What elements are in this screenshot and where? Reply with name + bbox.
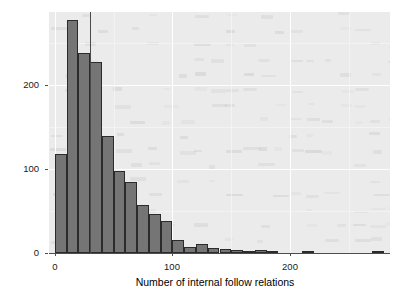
x-axis-line [49, 253, 390, 254]
background-texture [370, 181, 380, 183]
background-texture [243, 147, 259, 150]
background-texture [306, 60, 314, 62]
background-texture [372, 73, 380, 76]
background-texture [292, 149, 304, 152]
y-tick-mark [45, 253, 48, 254]
background-texture [51, 135, 64, 137]
plot-panel [49, 12, 390, 253]
background-texture [371, 208, 386, 210]
histogram-bar [78, 53, 90, 253]
histogram-bar [114, 171, 126, 253]
background-texture [324, 192, 340, 194]
background-texture [322, 120, 333, 124]
background-texture [354, 164, 366, 167]
background-texture [273, 195, 289, 197]
gridline-x-minor [231, 12, 232, 253]
histogram-chart: Frequency 0100200 0100200 Number of inte… [0, 0, 398, 302]
background-texture [149, 162, 160, 165]
background-texture [275, 31, 285, 35]
background-texture [177, 180, 189, 183]
background-texture [149, 193, 162, 196]
mean-reference-line [90, 12, 91, 253]
background-texture [290, 118, 302, 120]
background-texture [305, 150, 321, 153]
histogram-bar [102, 136, 114, 253]
background-texture [50, 148, 66, 152]
x-tick-label: 200 [270, 261, 310, 272]
y-tick-mark [45, 169, 48, 170]
background-texture [291, 192, 301, 195]
gridline-x-major [290, 12, 291, 253]
background-texture [373, 194, 390, 197]
background-texture [355, 121, 364, 124]
background-texture [114, 105, 130, 109]
background-texture [163, 88, 171, 91]
background-texture [195, 72, 206, 76]
background-texture [371, 237, 382, 241]
background-texture [243, 88, 256, 91]
histogram-bar [125, 182, 137, 253]
background-texture [307, 118, 320, 122]
background-texture [132, 27, 138, 29]
background-texture [325, 59, 331, 62]
background-texture [370, 225, 387, 228]
background-texture [259, 147, 268, 151]
background-texture [355, 88, 369, 91]
background-texture [388, 207, 390, 209]
y-axis-title-wrapper: Frequency [2, 0, 18, 16]
background-texture [149, 14, 158, 16]
background-texture [370, 120, 380, 122]
background-texture [226, 150, 241, 153]
histogram-bar [172, 240, 184, 253]
background-texture [261, 75, 276, 77]
background-texture [389, 46, 390, 48]
background-texture [306, 134, 313, 137]
gridline-y-minor [49, 43, 390, 44]
background-texture [308, 103, 314, 105]
background-texture [148, 147, 157, 150]
background-texture [181, 120, 196, 124]
background-texture [292, 91, 303, 94]
background-texture [82, 14, 90, 18]
background-texture [194, 87, 208, 91]
x-tick-mark [172, 253, 173, 256]
background-texture [194, 223, 208, 226]
background-texture [244, 73, 253, 75]
histogram-bar [90, 62, 102, 253]
background-texture [337, 224, 346, 227]
background-texture [373, 150, 382, 154]
background-texture [194, 58, 204, 61]
histogram-bar [161, 221, 173, 253]
background-texture [260, 117, 268, 121]
background-texture [291, 60, 303, 62]
histogram-bar [196, 244, 208, 253]
background-texture [258, 163, 274, 166]
background-texture [195, 15, 209, 17]
background-texture [306, 195, 319, 199]
y-tick-mark [45, 85, 48, 86]
y-tick-label: 200 [13, 80, 39, 90]
histogram-bar [67, 20, 79, 253]
histogram-bar [149, 214, 161, 253]
background-texture [291, 30, 303, 33]
x-tick-label: 0 [35, 261, 75, 272]
background-texture [355, 239, 370, 242]
background-texture [225, 238, 233, 240]
histogram-bar [137, 205, 149, 253]
background-texture [258, 59, 271, 62]
background-texture [130, 177, 146, 180]
y-tick-label: 0 [13, 248, 39, 258]
y-axis-title: Frequency [2, 0, 18, 16]
background-texture [116, 149, 132, 152]
background-texture [261, 15, 273, 19]
background-texture [274, 147, 283, 150]
background-texture [130, 121, 146, 124]
histogram-bar [55, 154, 67, 253]
background-texture [389, 118, 390, 121]
x-axis-title: Number of internal follow relations [55, 276, 375, 288]
background-texture [355, 29, 371, 31]
background-texture [179, 74, 186, 78]
background-texture [341, 90, 354, 93]
background-texture [307, 224, 317, 227]
background-texture [322, 151, 332, 155]
